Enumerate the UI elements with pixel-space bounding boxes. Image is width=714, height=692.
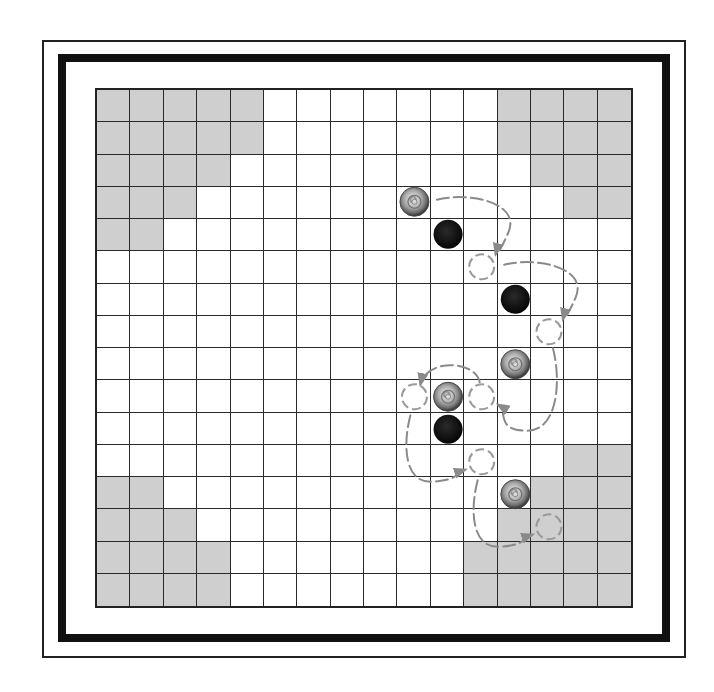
board-square[interactable] — [297, 380, 330, 412]
board-square[interactable] — [598, 413, 631, 445]
gray-piece-icon[interactable] — [501, 350, 530, 379]
board-square[interactable] — [130, 90, 163, 122]
board-square[interactable] — [197, 413, 230, 445]
board-square[interactable] — [531, 316, 564, 348]
board-square[interactable] — [464, 219, 497, 251]
board-square[interactable] — [97, 413, 130, 445]
board-square[interactable] — [464, 542, 497, 574]
board-square[interactable] — [464, 413, 497, 445]
board-square[interactable] — [164, 187, 197, 219]
board-square[interactable] — [564, 316, 597, 348]
board-square[interactable] — [130, 251, 163, 283]
board-square[interactable] — [264, 413, 297, 445]
board-square[interactable] — [164, 155, 197, 187]
board-square[interactable] — [564, 445, 597, 477]
board-square[interactable] — [598, 477, 631, 509]
board-square[interactable] — [364, 477, 397, 509]
board-square[interactable] — [231, 219, 264, 251]
board-square[interactable] — [97, 219, 130, 251]
board-square[interactable] — [531, 477, 564, 509]
black-piece-icon[interactable] — [434, 415, 463, 444]
board-square[interactable] — [564, 542, 597, 574]
board-square[interactable] — [97, 155, 130, 187]
board-square[interactable] — [431, 574, 464, 606]
board-square[interactable] — [531, 122, 564, 154]
board-square[interactable] — [598, 574, 631, 606]
board-square[interactable] — [431, 90, 464, 122]
board-square[interactable] — [564, 90, 597, 122]
board-square[interactable] — [331, 284, 364, 316]
board-square[interactable] — [197, 542, 230, 574]
board-square[interactable] — [297, 122, 330, 154]
board-square[interactable] — [331, 380, 364, 412]
board-square[interactable] — [130, 413, 163, 445]
board-square[interactable] — [264, 284, 297, 316]
board-square[interactable] — [498, 219, 531, 251]
black-piece-icon[interactable] — [434, 220, 463, 249]
board-square[interactable] — [397, 251, 430, 283]
board-square[interactable] — [431, 348, 464, 380]
board-square[interactable] — [364, 348, 397, 380]
board-square[interactable] — [564, 155, 597, 187]
board-square[interactable] — [197, 509, 230, 541]
board-square[interactable] — [464, 509, 497, 541]
board-square[interactable] — [531, 155, 564, 187]
board-square[interactable] — [231, 284, 264, 316]
board-square[interactable] — [531, 284, 564, 316]
board-square[interactable] — [197, 155, 230, 187]
board-square[interactable] — [531, 413, 564, 445]
board-square[interactable] — [331, 509, 364, 541]
board-square[interactable] — [130, 187, 163, 219]
board-square[interactable] — [431, 251, 464, 283]
board-square[interactable] — [498, 155, 531, 187]
board-square[interactable] — [97, 187, 130, 219]
board-square[interactable] — [197, 574, 230, 606]
board-square[interactable] — [331, 122, 364, 154]
board-square[interactable] — [97, 90, 130, 122]
board-square[interactable] — [564, 509, 597, 541]
board-square[interactable] — [264, 122, 297, 154]
board-square[interactable] — [364, 155, 397, 187]
board-square[interactable] — [464, 574, 497, 606]
board-square[interactable] — [297, 477, 330, 509]
board-square[interactable] — [464, 187, 497, 219]
board-square[interactable] — [231, 574, 264, 606]
board-square[interactable] — [598, 187, 631, 219]
board-square[interactable] — [364, 445, 397, 477]
board-square[interactable] — [364, 90, 397, 122]
board-square[interactable] — [130, 445, 163, 477]
board-square[interactable] — [498, 316, 531, 348]
board-square[interactable] — [464, 284, 497, 316]
board-square[interactable] — [130, 155, 163, 187]
board-square[interactable] — [598, 122, 631, 154]
board-square[interactable] — [264, 574, 297, 606]
board-square[interactable] — [564, 348, 597, 380]
board-square[interactable] — [464, 316, 497, 348]
board-square[interactable] — [331, 348, 364, 380]
board-square[interactable] — [498, 187, 531, 219]
board-square[interactable] — [397, 90, 430, 122]
board-square[interactable] — [264, 155, 297, 187]
board-square[interactable] — [97, 445, 130, 477]
board-square[interactable] — [297, 445, 330, 477]
board-square[interactable] — [264, 445, 297, 477]
board-square[interactable] — [197, 251, 230, 283]
board-square[interactable] — [498, 445, 531, 477]
board-square[interactable] — [97, 316, 130, 348]
board-square[interactable] — [97, 380, 130, 412]
board-square[interactable] — [264, 380, 297, 412]
board-square[interactable] — [464, 122, 497, 154]
board-square[interactable] — [598, 284, 631, 316]
board-square[interactable] — [364, 219, 397, 251]
board-square[interactable] — [397, 284, 430, 316]
board-square[interactable] — [431, 155, 464, 187]
board-square[interactable] — [498, 542, 531, 574]
board-square[interactable] — [97, 348, 130, 380]
board-square[interactable] — [231, 542, 264, 574]
board-square[interactable] — [164, 251, 197, 283]
board-square[interactable] — [364, 316, 397, 348]
board-square[interactable] — [397, 477, 430, 509]
board-square[interactable] — [531, 574, 564, 606]
board-square[interactable] — [164, 348, 197, 380]
board-square[interactable] — [498, 509, 531, 541]
